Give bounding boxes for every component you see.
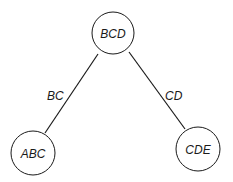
node-abc: ABC (11, 131, 55, 175)
edge-label-bc: BC (47, 89, 64, 103)
tree-diagram: BC CD BCD ABC CDE (0, 0, 233, 182)
node-label-cde: CDE (185, 143, 211, 157)
node-cde: CDE (176, 127, 220, 171)
node-label-abc: ABC (20, 147, 46, 161)
edge-label-cd: CD (165, 89, 183, 103)
node-label-bcd: BCD (100, 27, 126, 41)
node-bcd: BCD (92, 12, 134, 54)
